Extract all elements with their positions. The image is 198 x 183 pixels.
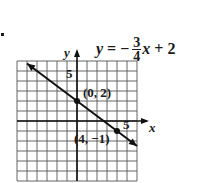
data-point (114, 128, 120, 134)
x-axis-arrow-icon (141, 118, 149, 124)
y-tick-label: 5 (66, 66, 73, 81)
axis-labels: yx55(0, 2)(4, −1) (62, 45, 156, 146)
coordinate-plane: yx55(0, 2)(4, −1) (0, 0, 198, 183)
point-label: (0, 2) (83, 85, 111, 100)
y-axis-label: y (62, 45, 70, 60)
data-point (74, 98, 80, 104)
x-axis-label: x (148, 120, 156, 135)
y-axis-arrow-icon (74, 49, 80, 57)
point-label: (4, −1) (74, 131, 110, 146)
x-tick-label: 5 (123, 117, 130, 132)
